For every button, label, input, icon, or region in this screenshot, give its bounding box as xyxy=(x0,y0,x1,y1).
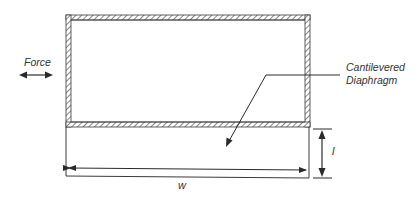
wall-left xyxy=(66,15,71,127)
diaphragm-outline xyxy=(66,127,309,178)
leader-arrowhead-icon xyxy=(226,138,233,148)
length-dimension: l xyxy=(313,129,335,178)
force-arrow-right-icon xyxy=(45,72,53,79)
arrowhead-up-icon xyxy=(319,130,326,139)
force-arrow-left-icon xyxy=(19,72,27,79)
force-indicator: Force xyxy=(19,56,53,79)
wall-top xyxy=(66,15,310,20)
diaphragm-label-line2: Diaphragm xyxy=(346,74,398,86)
wall-bottom xyxy=(66,122,310,127)
diaphragm-label-line1: Cantilevered xyxy=(346,61,406,73)
wall-right xyxy=(305,15,310,127)
arrowhead-down-icon xyxy=(319,168,326,177)
diaphragm-leader: Cantilevered Diaphragm xyxy=(226,61,406,147)
width-arrow xyxy=(70,168,306,170)
width-label: w xyxy=(178,179,187,191)
length-label: l xyxy=(332,145,335,157)
building-walls xyxy=(66,15,310,127)
cantilevered-diaphragm-diagram: w l Force Cantilevered Diaphragm xyxy=(0,0,420,198)
force-label: Force xyxy=(24,56,51,68)
arrowhead-left-icon xyxy=(68,165,76,171)
